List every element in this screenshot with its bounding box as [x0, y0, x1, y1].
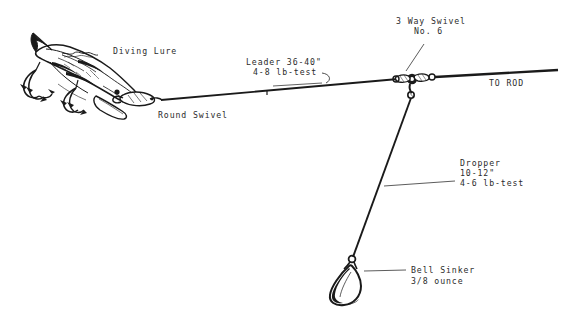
three-way-swivel-label-pointer [406, 44, 424, 71]
bell-sinker-icon [330, 256, 361, 306]
label-leader-length: Leader 36-40" [246, 57, 322, 68]
bell-sinker-label-pointer [364, 270, 406, 271]
dropper-label-pointer [384, 181, 455, 186]
leader-label-pointer [322, 73, 329, 83]
dropper-line [353, 98, 411, 257]
label-leader-test: 4-8 lb-test [253, 67, 317, 78]
fishing-rig-diagram: Diving Lure Round Swivel Leader 36-40" 4… [0, 0, 567, 316]
label-dropper-length: 10-12" [460, 168, 495, 179]
label-to-rod: TO ROD [489, 78, 524, 89]
leader-line [161, 79, 398, 100]
main-line-to-rod [435, 70, 558, 77]
label-three-way-swivel: 3 Way Swivel [396, 16, 466, 27]
label-bell-sinker: Bell Sinker [411, 265, 475, 276]
label-diving-lure: Diving Lure [113, 46, 177, 57]
label-dropper-test: 4-6 lb-test [460, 178, 524, 189]
label-three-way-swivel-size: No. 6 [414, 26, 443, 37]
label-dropper: Dropper [460, 158, 501, 169]
label-round-swivel: Round Swivel [158, 110, 228, 121]
label-bell-sinker-weight: 3/8 ounce [411, 276, 463, 287]
three-way-swivel-icon [393, 74, 435, 98]
